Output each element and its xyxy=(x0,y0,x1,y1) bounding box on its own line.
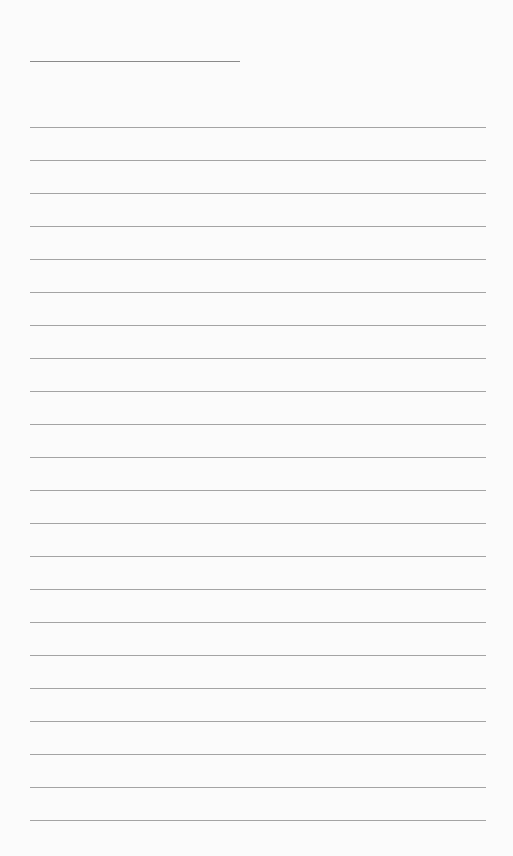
notepad-page xyxy=(0,0,513,856)
ruled-line xyxy=(30,259,486,260)
ruled-line xyxy=(30,688,486,689)
ruled-line xyxy=(30,721,486,722)
ruled-line xyxy=(30,193,486,194)
ruled-line xyxy=(30,424,486,425)
ruled-line xyxy=(30,160,486,161)
ruled-line xyxy=(30,556,486,557)
ruled-line xyxy=(30,754,486,755)
ruled-line xyxy=(30,787,486,788)
ruled-line xyxy=(30,655,486,656)
ruled-line xyxy=(30,226,486,227)
ruled-line xyxy=(30,622,486,623)
ruled-line xyxy=(30,127,486,128)
ruled-line xyxy=(30,325,486,326)
ruled-line xyxy=(30,292,486,293)
ruled-line xyxy=(30,391,486,392)
title-line xyxy=(30,61,240,62)
ruled-line xyxy=(30,523,486,524)
ruled-line xyxy=(30,457,486,458)
ruled-line xyxy=(30,589,486,590)
ruled-line xyxy=(30,358,486,359)
ruled-line xyxy=(30,490,486,491)
ruled-line xyxy=(30,820,486,821)
